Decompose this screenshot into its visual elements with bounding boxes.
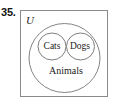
cats-set-label: Cats [38,41,66,51]
animals-set-circle [29,24,100,93]
dogs-set-label: Dogs [66,41,94,51]
animals-set-label: Animals [36,66,96,76]
venn-diagram-figure: 35. U Cats Dogs Animals [0,0,116,105]
set-circles-layer [0,0,116,105]
